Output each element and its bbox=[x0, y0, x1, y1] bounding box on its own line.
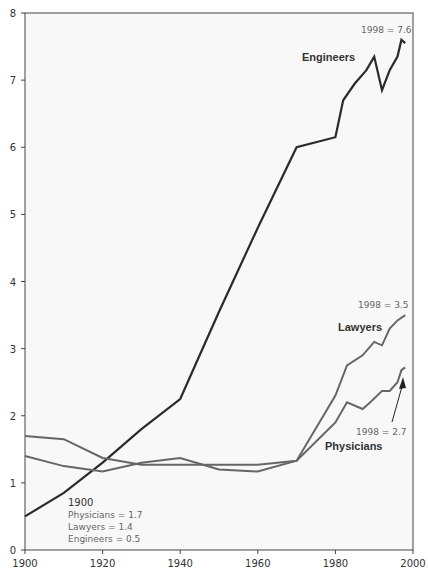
lawyers-label: Lawyers bbox=[338, 321, 382, 333]
engineers-end-annotation: 1998 = 7.6 bbox=[361, 25, 412, 35]
start-lawyers-label: Lawyers = 1.4 bbox=[68, 522, 133, 532]
start-engineers-label: Engineers = 0.5 bbox=[68, 534, 140, 544]
start-year-label: 1900 bbox=[68, 497, 93, 508]
x-axis: 190019201940196019802000 bbox=[12, 550, 425, 569]
y-tick-label: 0 bbox=[10, 545, 16, 556]
y-tick-label: 6 bbox=[10, 142, 16, 153]
x-tick-label: 1900 bbox=[12, 558, 37, 569]
x-tick-label: 1980 bbox=[323, 558, 348, 569]
physicians-end-annotation: 1998 = 2.7 bbox=[356, 427, 406, 437]
x-tick-label: 1960 bbox=[245, 558, 270, 569]
engineers-label: Engineers bbox=[302, 51, 355, 63]
y-tick-label: 4 bbox=[10, 277, 16, 288]
y-tick-label: 8 bbox=[10, 8, 16, 19]
line-chart: 012345678 190019201940196019802000 1998 … bbox=[0, 0, 428, 578]
y-tick-label: 7 bbox=[10, 75, 16, 86]
y-axis: 012345678 bbox=[10, 8, 25, 556]
y-tick-label: 3 bbox=[10, 344, 16, 355]
y-tick-label: 2 bbox=[10, 411, 16, 422]
y-tick-label: 1 bbox=[10, 478, 16, 489]
lawyers-end-annotation: 1998 = 3.5 bbox=[358, 300, 408, 310]
x-tick-label: 1940 bbox=[167, 558, 192, 569]
physicians-label: Physicians bbox=[325, 440, 382, 452]
x-tick-label: 2000 bbox=[400, 558, 425, 569]
y-tick-label: 5 bbox=[10, 209, 16, 220]
start-physicians-label: Physicians = 1.7 bbox=[68, 510, 143, 520]
x-tick-label: 1920 bbox=[90, 558, 115, 569]
